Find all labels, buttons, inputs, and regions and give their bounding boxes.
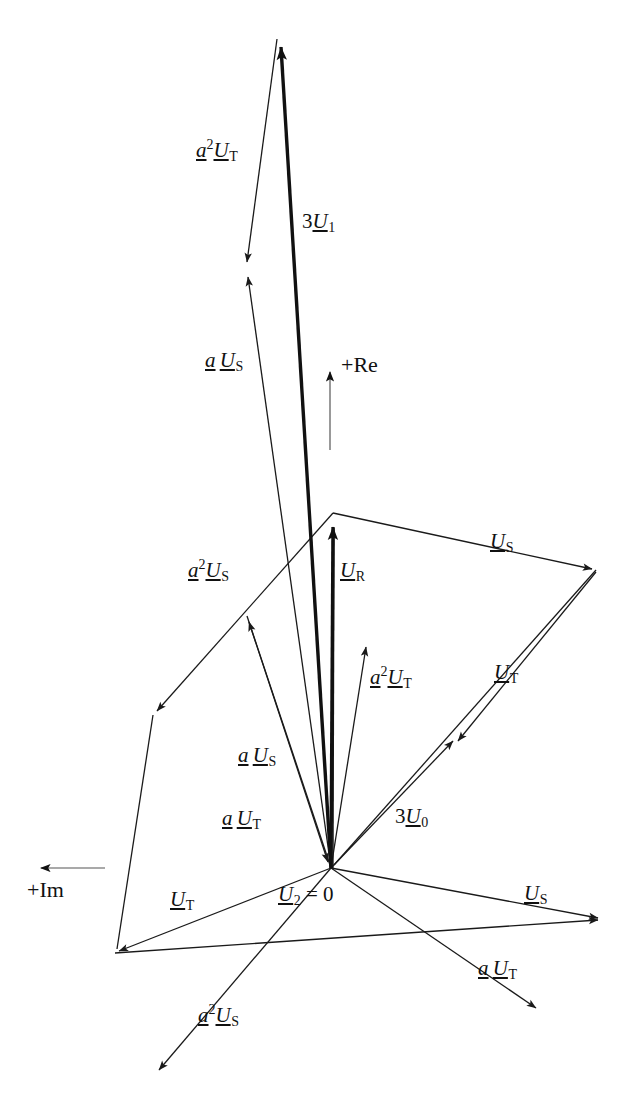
phasor-lines-thin: [115, 39, 598, 1070]
vector-US-lower-right: [115, 920, 598, 953]
phasor-vector-graphic: [0, 0, 643, 1106]
label-UT-left: UT: [170, 889, 194, 913]
vector-aUT-lower: [331, 868, 536, 1008]
vector-US-upper-right: [333, 513, 592, 569]
vector-UT-left-lower: [119, 868, 331, 951]
phasor-diagram-canvas: a2UT 3U1 a US +Re US a2US UR a2UT UT a U…: [0, 0, 643, 1106]
label-a2UT-top: a2UT: [196, 138, 238, 164]
vector-a2UT-through: [334, 570, 596, 865]
vector-edge-left-down: [117, 715, 153, 949]
label-axis-re: +Re: [341, 354, 378, 376]
vector-a2US-mid: [157, 513, 333, 711]
label-aUS-mid: a US: [238, 745, 276, 769]
label-US-right: US: [490, 531, 513, 555]
label-aUT-mid: a UT: [222, 808, 261, 832]
vector-US-origin-right: [331, 868, 598, 918]
label-aUT-low: a UT: [478, 958, 517, 982]
label-UT-right: UT: [494, 662, 518, 686]
label-a2US-mid: a2US: [188, 558, 229, 584]
label-axis-im: +Im: [27, 879, 64, 901]
vector-UT-right-down: [458, 572, 596, 741]
vector-3U1: [281, 47, 331, 868]
label-U2-eq-0: U2 = 0: [278, 884, 334, 908]
vector-UR: [331, 527, 333, 868]
label-a2US-low: a2US: [198, 1003, 239, 1029]
axis-lines: [41, 372, 330, 868]
label-a2UT-mid: a2UT: [370, 665, 412, 691]
label-US-lower-right: US: [524, 883, 547, 907]
label-3U1: 3U1: [302, 211, 335, 235]
vector-a2UT-top: [247, 39, 277, 262]
label-UR: UR: [340, 560, 365, 584]
vector-aUS-top: [248, 277, 331, 868]
vector-3U0: [331, 741, 453, 868]
label-aUS-top: a US: [205, 350, 243, 374]
label-3U0: 3U0: [395, 806, 428, 830]
